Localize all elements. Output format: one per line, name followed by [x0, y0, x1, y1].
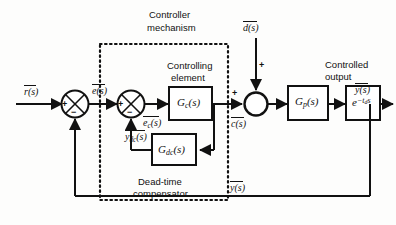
controlled-output-label-line2: output: [325, 72, 351, 83]
control-block-diagram: Controller mechanism Controlling element…: [0, 0, 396, 225]
signal-reference-label: r(s): [24, 86, 38, 97]
controller-junction-sign-left: +: [118, 99, 123, 109]
dead-time-compensator-block-label: Gdc(s): [158, 143, 185, 158]
controlling-element-label-line1: Controlling: [167, 61, 212, 72]
delay-exp-s: s: [367, 96, 370, 105]
signal-output-label: y(s): [355, 84, 370, 95]
dead-time-compensator-label-line1: Dead-time: [138, 177, 182, 188]
signal-dead-time-feedback-text: ydc(s): [125, 131, 147, 144]
gp-tail: (s): [307, 95, 319, 107]
signal-controller-error-text: ec(s): [143, 117, 161, 130]
process-block-label: Gp(s): [295, 95, 319, 110]
error-junction-sign-left: +: [62, 99, 67, 109]
signal-dtf-tail: (s): [136, 131, 147, 142]
gc-main: G: [177, 96, 185, 108]
signal-controller-output-label: c(s): [231, 118, 246, 129]
signal-controller-error-tail: (s): [151, 117, 162, 128]
signal-error-label: e(s): [92, 85, 107, 96]
dead-time-compensator-label-line2: compensator: [133, 189, 188, 200]
disturbance-junction-sign-left: +: [232, 88, 237, 98]
signal-output-feedback-label: y(s): [230, 182, 245, 193]
gp-main: G: [295, 95, 303, 107]
disturbance-junction-sign-top: +: [259, 60, 264, 70]
controller-mechanism-label-line1: Controller: [149, 10, 190, 21]
gdc-tail: (s): [173, 143, 185, 155]
controller-mechanism-label-line2: mechanism: [147, 23, 196, 34]
controlled-output-label-line1: Controlled: [325, 60, 368, 71]
diagram-canvas: [0, 0, 396, 225]
signal-controller-output-text: c(s): [231, 118, 246, 129]
signal-output-feedback-text: y(s): [230, 182, 245, 193]
signal-error-text: e(s): [92, 85, 107, 96]
disturbance-junction-circle: [245, 93, 268, 116]
gc-tail: (s): [188, 96, 200, 108]
time-delay-block-label: e−tds: [352, 96, 370, 108]
signal-dead-time-feedback-label: ydc(s): [125, 131, 147, 144]
controlling-element-block-label: Gc(s): [177, 96, 200, 111]
gdc-main: G: [158, 143, 166, 155]
error-junction-sign-bottom: −: [71, 107, 76, 117]
signal-reference-text: r(s): [24, 86, 38, 97]
controller-junction-sign-bottom: −: [127, 107, 132, 117]
signal-output-text: y(s): [355, 84, 370, 95]
signal-disturbance-label: d(s): [243, 22, 259, 33]
controlling-element-label-line2: element: [171, 73, 205, 84]
delay-exponent: −tds: [357, 96, 371, 105]
signal-disturbance-text: d(s): [243, 22, 259, 33]
signal-controller-error-label: ec(s): [143, 117, 161, 130]
